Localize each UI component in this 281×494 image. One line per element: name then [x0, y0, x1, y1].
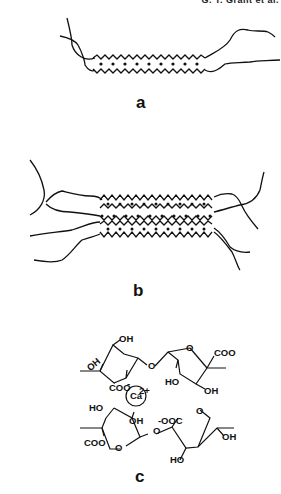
svg-text:O: O — [186, 342, 193, 353]
svg-text:HO: HO — [165, 376, 179, 387]
svg-text:OH: OH — [119, 333, 133, 344]
svg-text:2+: 2+ — [139, 385, 150, 396]
panel-a-label: a — [136, 93, 145, 113]
panel-a-diagram — [60, 18, 280, 73]
svg-text:HO: HO — [89, 402, 103, 413]
svg-text:OH: OH — [129, 415, 143, 426]
svg-text:OOC: OOC — [161, 415, 183, 426]
svg-text:COO: COO — [84, 437, 106, 448]
svg-text:O: O — [115, 442, 122, 453]
panel-b-diagram — [30, 160, 264, 270]
panel-c-label: c — [135, 467, 144, 487]
svg-text:OH: OH — [204, 385, 218, 396]
svg-text:COO: COO — [214, 347, 236, 358]
panel-b-label: b — [133, 281, 143, 301]
svg-text:O: O — [148, 360, 155, 371]
svg-text:O: O — [196, 405, 203, 416]
svg-text:HO: HO — [170, 454, 184, 465]
figure-canvas: OH OH O COO - HO O COO OH Ca 2+ HO OH - … — [0, 0, 281, 494]
panel-c-labels: OH OH O COO - HO O COO OH Ca 2+ HO OH - … — [84, 333, 236, 465]
svg-text:O: O — [153, 425, 160, 436]
svg-text:OH: OH — [222, 431, 236, 442]
panel-a-cation-sites — [99, 62, 198, 65]
svg-text:-: - — [127, 378, 130, 389]
